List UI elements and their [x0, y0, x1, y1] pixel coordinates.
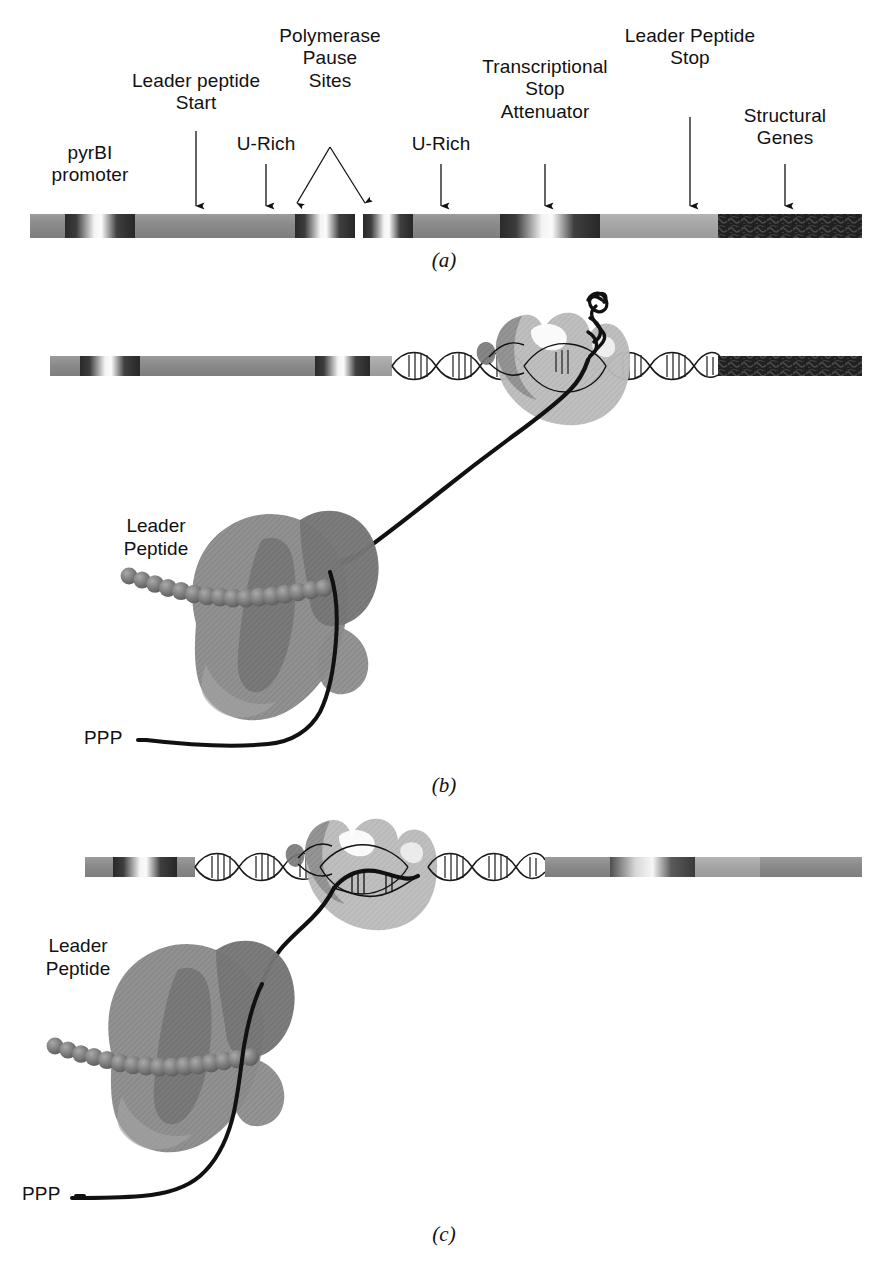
panel-c-right-bar — [545, 857, 862, 877]
label-u-rich-left: U-Rich — [221, 133, 311, 155]
bar-segment-light — [695, 857, 760, 877]
label-leader-peptide-stop: Leader Peptide Stop — [608, 25, 772, 70]
panel-b-ribosome — [192, 511, 378, 721]
label-transcriptional-stop-attenuator: Transcriptional Stop Attenuator — [466, 56, 624, 123]
panel-b-structural-genes-bar — [718, 356, 862, 376]
bar-segment-tail — [370, 356, 392, 376]
panel-a-dna-bar — [30, 214, 862, 238]
panel-b-leader-peptide-label: Leader Peptide — [100, 515, 212, 561]
bar-segment-structural-genes — [718, 214, 862, 238]
figure-root: pyrBI promoter Leader peptide Start U-Ri… — [0, 0, 889, 1284]
bar-segment-pause-band — [315, 356, 370, 376]
bar-segment-leader-region — [140, 356, 315, 376]
arrow-pause-site-2 — [330, 147, 365, 203]
panel-c-ribosome — [108, 941, 294, 1153]
panel-c-caption: (c) — [414, 1222, 474, 1247]
bar-segment-upstream — [50, 356, 80, 376]
bar-segment-upstream — [30, 214, 65, 238]
bar-segment-leader-region — [135, 214, 295, 238]
panel-b-ppp-label: PPP — [84, 727, 123, 749]
panel-a-caption: (a) — [414, 248, 474, 273]
panel-c-dna-helix-right — [428, 853, 545, 880]
bar-segment-pause-site-2 — [363, 214, 413, 238]
bar-segment-inter-region — [413, 214, 500, 238]
label-u-rich-right: U-Rich — [396, 133, 486, 155]
diagram-graphics — [0, 0, 889, 1284]
bar-segment-structural-genes — [760, 857, 862, 877]
label-pyrbi-promoter: pyrBI promoter — [40, 142, 140, 187]
bar-segment-upstream — [85, 857, 113, 877]
panel-c-leader-peptide-label: Leader Peptide — [22, 935, 134, 981]
bar-segment-pyrbi-promoter-band — [113, 857, 177, 877]
bar-segment-attenuator — [500, 214, 600, 238]
panel-b-caption: (b) — [414, 773, 474, 798]
panel-a-arrows — [196, 117, 785, 206]
bar-segment-pyrbi-promoter-band — [80, 356, 140, 376]
panel-b-left-bar — [50, 356, 392, 376]
panel-c-rna-polymerase — [286, 819, 437, 931]
panel-c-left-bar — [85, 857, 195, 877]
label-leader-peptide-start: Leader peptide Start — [118, 70, 274, 115]
panel-c-ppp-label: PPP — [22, 1183, 61, 1205]
bar-segment-pyrbi-promoter-band — [65, 214, 135, 238]
bar-segment-attenuator-downstream — [545, 857, 610, 877]
panel-c-graphics — [47, 819, 862, 1198]
bar-segment-band — [610, 857, 695, 877]
label-structural-genes: Structural Genes — [722, 105, 848, 150]
bar-segment-pause-gap — [355, 214, 363, 238]
bar-segment-pause-site-1 — [295, 214, 355, 238]
bar-segment-tail — [177, 857, 195, 877]
panel-b-rna-polymerase — [477, 313, 630, 426]
label-polymerase-pause-sites: Polymerase Pause Sites — [262, 25, 398, 92]
bar-segment-post-attenuator — [600, 214, 718, 238]
